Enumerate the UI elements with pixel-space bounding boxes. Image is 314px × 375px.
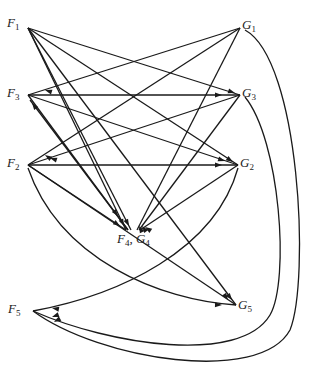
node-label-f3: F3 <box>7 86 19 102</box>
edge <box>139 95 240 230</box>
node-label-f1: F1 <box>7 16 19 32</box>
arrowhead-icon <box>215 163 222 168</box>
edge <box>28 28 236 305</box>
arrowhead-icon <box>53 316 62 324</box>
graph-diagram: F1F3F2F5G1G3G2G5F4, G4 <box>0 0 314 375</box>
arrowhead-icon <box>215 93 222 98</box>
node-label-f4g4: F4, G4 <box>117 232 150 248</box>
node-label-g3: G3 <box>242 86 256 102</box>
node-label-f5: F5 <box>8 302 20 318</box>
node-label-g1: G1 <box>242 18 256 34</box>
node-label-g5: G5 <box>238 298 252 314</box>
edges-layer <box>0 0 314 375</box>
node-label-g2: G2 <box>240 156 254 172</box>
node-label-f2: F2 <box>7 156 19 172</box>
arrowhead-icon <box>228 88 236 95</box>
